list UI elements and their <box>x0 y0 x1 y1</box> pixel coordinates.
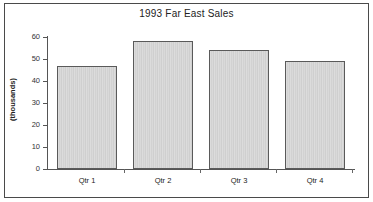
y-tick-label-40: 40 <box>22 77 40 85</box>
y-tick-label-60-wrap: 60 <box>22 33 40 41</box>
y-tick-mark-10 <box>43 147 48 148</box>
y-tick-mark-30 <box>43 103 48 104</box>
x-axis-label-qtr-4: Qtr 4 <box>285 176 345 185</box>
bar-qtr-2 <box>133 41 193 169</box>
x-tick-mark-2 <box>200 169 201 173</box>
x-axis-label-qtr-1: Qtr 1 <box>57 176 117 185</box>
y-tick-label-40-wrap: 40 <box>22 77 40 85</box>
x-tick-mark-1 <box>124 169 125 173</box>
bar-qtr-3 <box>209 50 269 169</box>
bar-qtr-1 <box>57 66 117 169</box>
y-axis-title: (thousands) <box>8 60 17 140</box>
y-tick-label-60: 60 <box>22 33 40 41</box>
x-axis-label-qtr-2: Qtr 2 <box>133 176 193 185</box>
chart-title: 1993 Far East Sales <box>0 8 373 19</box>
y-tick-label-30-wrap: 30 <box>22 99 40 107</box>
x-axis-label-qtr-3: Qtr 3 <box>209 176 269 185</box>
y-tick-label-50-wrap: 50 <box>22 55 40 63</box>
y-tick-label-0: 0 <box>22 165 40 173</box>
y-tick-label-20-wrap: 20 <box>22 121 40 129</box>
y-tick-label-10-wrap: 10 <box>22 143 40 151</box>
y-tick-mark-0 <box>43 169 48 170</box>
y-tick-label-20: 20 <box>22 121 40 129</box>
y-tick-mark-60 <box>43 37 48 38</box>
y-tick-mark-20 <box>43 125 48 126</box>
y-tick-mark-40 <box>43 81 48 82</box>
y-tick-label-0-wrap: 0 <box>22 165 40 173</box>
bar-qtr-4 <box>285 61 345 169</box>
y-tick-label-10: 10 <box>22 143 40 151</box>
y-tick-label-50: 50 <box>22 55 40 63</box>
x-tick-mark-3 <box>276 169 277 173</box>
chart-screenshot: 1993 Far East Sales (thousands) 60 50 40… <box>0 0 373 202</box>
x-tick-mark-4 <box>352 169 353 173</box>
y-tick-label-30: 30 <box>22 99 40 107</box>
x-axis-line <box>47 169 355 170</box>
y-tick-mark-50 <box>43 59 48 60</box>
